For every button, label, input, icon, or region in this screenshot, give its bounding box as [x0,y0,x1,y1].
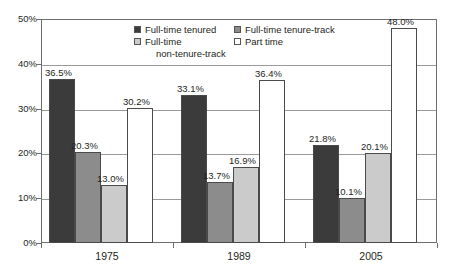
y-tick-label-20: 20% [3,148,37,158]
legend-label-line2: non-tenure-track [145,48,226,60]
legend-row-2: Full-timenon-tenure-track Part time [134,36,344,60]
bar-value-label: 36.5% [45,67,72,78]
x-tick-label-1989: 1989 [227,250,250,262]
bar [233,167,259,243]
y-tick-label-50: 50% [3,14,37,24]
grouped-bar-chart: 50% 40% 30% 20% 10% 0% 36.5%33.1%21.8%20… [0,0,454,278]
bar-value-label: 10.1% [335,186,362,197]
legend-swatch-full-time-tenure-track [234,26,241,33]
bar [207,182,233,243]
y-tick-label-0: 0% [3,238,37,248]
legend-swatch-full-time-non-tenure-track [134,38,141,45]
y-tick-label-40: 40% [3,59,37,69]
bar-value-label: 16.9% [229,155,256,166]
legend-row-1: Full-time tenured Full-time tenure-track [134,24,344,36]
y-tick-label-10: 10% [3,193,37,203]
bar-value-label: 30.2% [123,96,150,107]
x-axis: 1975 1989 2005 [41,250,437,270]
x-tick-mark-1 [173,243,174,248]
y-axis: 50% 40% 30% 20% 10% 0% [0,19,37,243]
bar [365,153,391,243]
x-tick-label-1975: 1975 [95,250,118,262]
bar-value-label: 20.1% [361,141,388,152]
legend-label-full-time-non-tenure-track: Full-timenon-tenure-track [145,36,226,60]
x-tick-label-2005: 2005 [359,250,382,262]
bar-value-label: 20.3% [71,140,98,151]
bar [339,198,365,243]
x-tick-mark-left [41,243,42,248]
legend-swatch-full-time-tenured [134,26,141,33]
bar-value-label: 13.7% [203,170,230,181]
bar [259,80,285,243]
bar [101,185,127,243]
bar [127,108,153,243]
legend-label-full-time-tenured: Full-time tenured [145,24,216,36]
legend-label-full-time-tenure-track: Full-time tenure-track [245,24,335,36]
bar [49,79,75,243]
bar-value-label: 13.0% [97,173,124,184]
y-tick-label-30: 30% [3,104,37,114]
legend-swatch-part-time [234,38,241,45]
legend-item-full-time-non-tenure-track: Full-timenon-tenure-track [134,36,234,60]
bar [391,28,417,243]
bar-value-label: 48.0% [387,16,414,27]
x-tick-mark-2 [305,243,306,248]
legend-item-part-time: Part time [234,36,344,48]
bar [75,152,101,243]
x-tick-mark-right [437,243,438,248]
bar-value-label: 36.4% [255,68,282,79]
legend-item-full-time-tenure-track: Full-time tenure-track [234,24,344,36]
bar-value-label: 21.8% [309,133,336,144]
bar-value-label: 33.1% [177,83,204,94]
legend-label-line1: Full-time [145,36,181,47]
legend-item-full-time-tenured: Full-time tenured [134,24,234,36]
legend-label-part-time: Part time [245,36,283,48]
chart-legend: Full-time tenured Full-time tenure-track… [134,24,344,60]
